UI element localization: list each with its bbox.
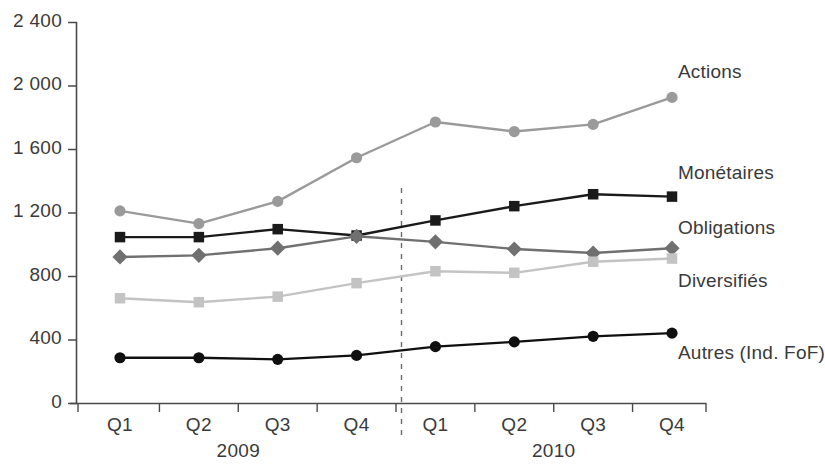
- data-point-marker: [428, 234, 443, 249]
- series-label-autres-ind-fof: Autres (Ind. FoF): [678, 342, 825, 364]
- x-axis-year-label: 2010: [494, 440, 614, 462]
- data-point-marker: [272, 196, 283, 207]
- data-point-marker: [194, 232, 205, 243]
- x-axis-tick-label: Q4: [642, 414, 702, 436]
- data-point-marker: [509, 336, 520, 347]
- data-point-marker: [272, 224, 283, 235]
- series-layer: [112, 92, 679, 365]
- series-actions: [114, 92, 677, 229]
- y-axis-tick-label: 800: [0, 264, 62, 286]
- data-point-marker: [115, 232, 126, 243]
- series-autres-ind-fof: [114, 328, 677, 365]
- data-point-marker: [509, 126, 520, 137]
- data-point-marker: [194, 297, 205, 308]
- data-point-marker: [588, 256, 599, 267]
- y-axis-tick-label: 1 200: [0, 200, 62, 222]
- data-point-marker: [272, 291, 283, 302]
- data-point-marker: [351, 152, 362, 163]
- data-point-marker: [351, 278, 362, 289]
- x-axis-tick-label: Q1: [90, 414, 150, 436]
- x-axis-tick-label: Q2: [169, 414, 229, 436]
- y-axis-tick-label: 400: [0, 327, 62, 349]
- y-axis-tick-label: 2 000: [0, 73, 62, 95]
- data-point-marker: [193, 352, 204, 363]
- x-axis-year-label: 2009: [178, 440, 298, 462]
- data-point-marker: [430, 341, 441, 352]
- x-axis-tick-label: Q1: [405, 414, 465, 436]
- data-point-marker: [270, 241, 285, 256]
- x-axis-tick-label: Q3: [563, 414, 623, 436]
- data-point-marker: [272, 354, 283, 365]
- data-point-marker: [349, 229, 364, 244]
- data-point-marker: [667, 191, 678, 202]
- y-axis-ticks: [68, 23, 77, 404]
- y-axis-tick-label: 1 600: [0, 137, 62, 159]
- data-point-marker: [193, 218, 204, 229]
- data-point-marker: [666, 328, 677, 339]
- data-point-marker: [114, 352, 125, 363]
- data-point-marker: [509, 268, 520, 279]
- x-axis-tick-label: Q3: [248, 414, 308, 436]
- data-point-marker: [667, 253, 678, 264]
- series-line: [120, 97, 672, 223]
- data-point-marker: [114, 205, 125, 216]
- x-axis-ticks: [78, 403, 706, 412]
- data-point-marker: [588, 119, 599, 130]
- series-label-mon-taires: Monétaires: [678, 162, 774, 184]
- series-mon-taires: [115, 189, 678, 242]
- y-axis-tick-label: 0: [0, 391, 62, 413]
- data-point-marker: [430, 266, 441, 277]
- data-point-marker: [351, 350, 362, 361]
- data-point-marker: [588, 331, 599, 342]
- y-axis-tick-label: 2 400: [0, 10, 62, 32]
- series-label-actions: Actions: [678, 61, 742, 83]
- data-point-marker: [191, 248, 206, 263]
- data-point-marker: [588, 189, 599, 200]
- x-axis-tick-label: Q2: [484, 414, 544, 436]
- data-point-marker: [666, 92, 677, 103]
- data-point-marker: [430, 116, 441, 127]
- series-label-diversifi-s: Diversifiés: [678, 270, 768, 292]
- data-point-marker: [112, 249, 127, 264]
- data-point-marker: [430, 215, 441, 226]
- data-point-marker: [115, 293, 126, 304]
- series-line: [120, 194, 672, 237]
- series-label-obligations: Obligations: [678, 217, 775, 239]
- data-point-marker: [509, 201, 520, 212]
- x-axis-tick-label: Q4: [327, 414, 387, 436]
- data-point-marker: [507, 241, 522, 256]
